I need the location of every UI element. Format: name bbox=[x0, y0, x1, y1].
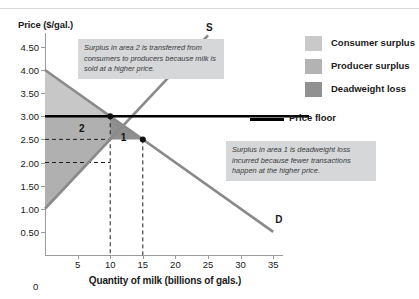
x-axis-line bbox=[45, 255, 283, 256]
y-tick-label: 0.50 bbox=[21, 226, 40, 237]
region-label-1: 1 bbox=[121, 132, 127, 143]
data-point bbox=[140, 136, 146, 142]
price-floor-legend-line bbox=[250, 118, 284, 121]
y-tick-label: 1.00 bbox=[21, 203, 40, 214]
x-tick-label: 15 bbox=[138, 259, 149, 270]
chart-legend: Consumer surplusProducer surplusDeadweig… bbox=[305, 34, 419, 103]
x-tick-label: 5 bbox=[75, 259, 80, 270]
annotation-area-1: Surplus in area 1 is deadweight loss inc… bbox=[226, 141, 376, 181]
y-tick-label: 3.50 bbox=[21, 88, 40, 99]
legend-swatch bbox=[305, 82, 322, 97]
y-tick-label: 4.00 bbox=[21, 65, 40, 76]
legend-label: Consumer surplus bbox=[331, 37, 415, 48]
legend-label: Deadweight loss bbox=[331, 83, 406, 94]
x-tick-label: 35 bbox=[268, 259, 279, 270]
x-axis-origin-label: 0 bbox=[33, 281, 38, 292]
y-tick-label: 4.50 bbox=[21, 41, 40, 52]
y-tick-label: 3.00 bbox=[21, 111, 40, 122]
top-divider bbox=[0, 8, 419, 9]
y-tick-label: 2.50 bbox=[21, 134, 40, 145]
y-axis-title: Price ($/gal.) bbox=[18, 19, 73, 30]
annotation-area-2: Surplus in area 2 is transferred from co… bbox=[78, 39, 224, 79]
chart-figure: Price ($/gal.) Quantity of milk (billion… bbox=[0, 0, 419, 299]
data-point bbox=[107, 113, 113, 119]
x-tick-label: 30 bbox=[235, 259, 246, 270]
region-label-2: 2 bbox=[79, 123, 85, 134]
y-tick-label: 1.50 bbox=[21, 180, 40, 191]
price-floor-legend-label: Price floor bbox=[289, 112, 336, 123]
x-tick-label: 10 bbox=[105, 259, 116, 270]
demand-curve-label: D bbox=[275, 214, 282, 225]
legend-item: Consumer surplus bbox=[305, 34, 419, 57]
supply-curve-label: S bbox=[206, 22, 213, 33]
legend-swatch bbox=[305, 36, 322, 51]
price-floor-legend: Price floor bbox=[250, 112, 419, 126]
legend-item: Deadweight loss bbox=[305, 80, 419, 103]
legend-swatch bbox=[305, 59, 322, 74]
legend-item: Producer surplus bbox=[305, 57, 419, 80]
x-tick-label: 20 bbox=[170, 259, 181, 270]
y-tick-label: 2.00 bbox=[21, 157, 40, 168]
legend-label: Producer surplus bbox=[331, 60, 410, 71]
x-tick-label: 25 bbox=[203, 259, 214, 270]
x-axis-title: Quantity of milk (billions of gals.) bbox=[0, 275, 330, 286]
